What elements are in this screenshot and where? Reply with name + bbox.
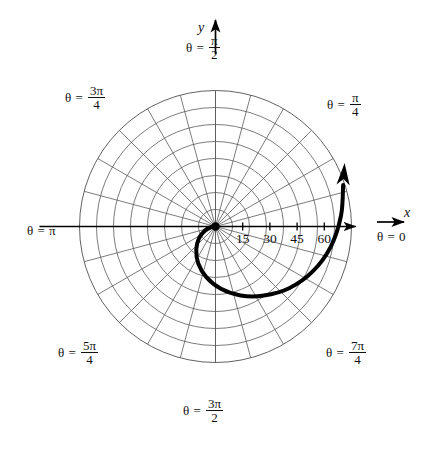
radial-tick-label-15: 15	[231, 231, 255, 247]
angle-label-theta-3pi-over-2: θ = 3π2	[183, 398, 223, 426]
radial-tick-label-45: 45	[285, 231, 309, 247]
angle-label-theta-pi: θ = π	[27, 224, 56, 237]
radial-tick-label-30: 30	[258, 231, 282, 247]
angle-label-theta-5pi-over-4: θ = 5π4	[58, 340, 98, 368]
polar-graph-figure: θ = π2θ = π4θ = 3π4θ = πθ = 5π4θ = 3π2θ …	[0, 0, 433, 450]
x-axis-label: x	[404, 205, 410, 221]
angle-label-theta-7pi-over-4: θ = 7π4	[326, 340, 366, 368]
radial-tick-label-60: 60	[312, 231, 336, 247]
angle-label-theta-0: θ = 0	[377, 230, 406, 243]
polar-plot-canvas	[0, 0, 433, 450]
angle-label-theta-pi-over-2: θ = π2	[186, 35, 220, 63]
y-axis-label: y	[198, 20, 204, 36]
angle-label-theta-pi-over-4: θ = π4	[327, 92, 361, 120]
pole-point	[211, 222, 219, 230]
angle-label-theta-3pi-over-4: θ = 3π4	[65, 85, 105, 113]
